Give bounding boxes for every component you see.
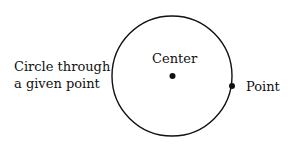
point-label: Point (246, 79, 281, 94)
circle-diagram: Center Point Circle through a given poin… (0, 0, 293, 150)
center-label: Center (152, 51, 198, 66)
caption-line-2: a given point (14, 76, 101, 91)
point-dot (229, 83, 235, 89)
caption-line-1: Circle through (14, 59, 111, 74)
center-dot (170, 73, 176, 79)
